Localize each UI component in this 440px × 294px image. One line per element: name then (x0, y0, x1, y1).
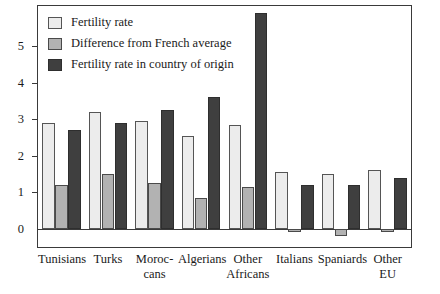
legend-item: Fertility rate in country of origin (48, 54, 278, 75)
bar (348, 185, 361, 229)
x-tick-label-line: Tunisians (38, 252, 86, 266)
dark-swatch (48, 59, 62, 71)
y-tick-label: 0 (18, 222, 24, 235)
bar (288, 229, 301, 232)
x-tick-label-line: cans (131, 267, 178, 282)
x-tick-label-line: Spaniards (318, 252, 367, 266)
legend-item: Difference from French average (48, 33, 278, 54)
medium-swatch (48, 38, 62, 50)
bar (275, 172, 288, 229)
bar (322, 174, 335, 229)
x-tick-label: Spaniards (318, 252, 365, 267)
y-tick-label: 1 (18, 186, 24, 199)
bar (195, 198, 208, 229)
x-tick-label: Tunisians (38, 252, 85, 267)
zero-baseline (38, 229, 411, 230)
bar (301, 185, 314, 229)
y-tick-label: 5 (18, 40, 24, 53)
bar (161, 110, 174, 229)
chart-legend: Fertility rateDifference from French ave… (48, 12, 278, 75)
bar (394, 178, 407, 229)
bar (42, 123, 55, 229)
x-tick-label-line: Other (234, 252, 262, 266)
x-tick-label-line: Other (373, 252, 401, 266)
x-tick-label-line: EU (364, 267, 411, 282)
bar (242, 187, 255, 229)
bar (89, 112, 102, 229)
y-axis: 012345 (0, 0, 37, 294)
x-tick-label-line: Turks (94, 252, 123, 266)
x-tick-label: Algerians (178, 252, 225, 267)
x-tick-label-line: Africans (225, 267, 272, 282)
bar (182, 136, 195, 229)
x-tick-label: Turks (85, 252, 132, 267)
bar (208, 97, 221, 228)
x-tick-label: Moroc-cans (131, 252, 178, 282)
legend-item: Fertility rate (48, 12, 278, 33)
x-tick-label-line: Italians (276, 252, 313, 266)
bar (229, 125, 242, 229)
light-swatch (48, 17, 62, 29)
bar-chart-figure: 012345 Fertility rateDifference from Fre… (0, 0, 440, 294)
bar (135, 121, 148, 229)
bar (381, 229, 394, 233)
bar (68, 130, 81, 229)
legend-item-label: Difference from French average (71, 37, 231, 50)
x-tick-label: OtherAfricans (225, 252, 272, 282)
x-axis: TunisiansTurksMoroc-cansAlgeriansOtherAf… (38, 252, 411, 294)
y-tick-label: 2 (18, 149, 24, 162)
bar (102, 174, 115, 229)
legend-item-label: Fertility rate (71, 16, 133, 29)
x-tick-label-line: Algerians (178, 252, 227, 266)
bar (115, 123, 128, 229)
y-tick-label: 3 (18, 113, 24, 126)
x-tick-label: Italians (271, 252, 318, 267)
y-tick-label: 4 (18, 76, 24, 89)
x-tick-label-line: Moroc- (136, 252, 174, 266)
bar (148, 183, 161, 229)
bar (368, 170, 381, 229)
bar (335, 229, 348, 236)
bar (55, 185, 68, 229)
legend-item-label: Fertility rate in country of origin (71, 58, 234, 71)
x-tick-label: OtherEU (364, 252, 411, 282)
